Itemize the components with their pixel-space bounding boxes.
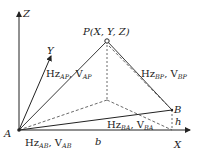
- dashed-a-proj: [19, 100, 107, 130]
- baseline-label: b: [95, 136, 101, 147]
- x-axis-label: X: [173, 139, 182, 150]
- point-a: [17, 128, 21, 132]
- label-ab: HzAB, VAB: [25, 137, 72, 150]
- point-b-label: B: [173, 104, 181, 115]
- label-bp: HzBP, VBP: [141, 68, 188, 81]
- y-axis-label: Y: [47, 45, 55, 56]
- point-p: [105, 39, 109, 43]
- point-a-label: A: [3, 128, 11, 139]
- line-a-p: [19, 41, 107, 130]
- z-axis-label: Z: [22, 8, 31, 19]
- point-b: [171, 109, 173, 111]
- survey-geometry-diagram: Z Y X A B P(X, Y, Z) HzAP, VAP HzBP, VBP…: [0, 0, 201, 155]
- point-p-label: P(X, Y, Z): [82, 26, 130, 37]
- height-label: h: [175, 116, 181, 127]
